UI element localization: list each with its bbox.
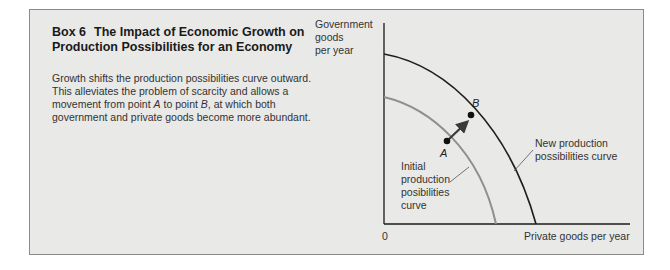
initial-ppc-label-line3: posibilities <box>401 186 449 198</box>
growth-arrow <box>449 123 466 139</box>
initial-ppc-leader-line <box>450 167 469 182</box>
new-ppc-label-line2: possibilities curve <box>535 150 617 162</box>
ppc-chart: Government goods per year 0 Private good… <box>0 0 670 270</box>
initial-ppc-label-line4: curve <box>401 199 427 211</box>
point-b <box>468 112 475 119</box>
point-a-label: A <box>439 147 447 159</box>
initial-ppc-label-line2: production <box>401 173 450 185</box>
initial-ppc-label-line1: Initial <box>401 160 426 172</box>
y-axis-label-line1: Government <box>315 18 373 30</box>
point-b-label: B <box>472 97 479 109</box>
point-a <box>444 138 451 145</box>
y-axis-label-line3: per year <box>315 44 354 56</box>
new-ppc-label-line1: New production <box>535 137 608 149</box>
y-axis-label-line2: goods <box>315 31 344 43</box>
x-axis-label: Private goods per year <box>524 230 630 242</box>
origin-label: 0 <box>382 230 388 242</box>
new-ppc-leader-line <box>514 150 533 171</box>
